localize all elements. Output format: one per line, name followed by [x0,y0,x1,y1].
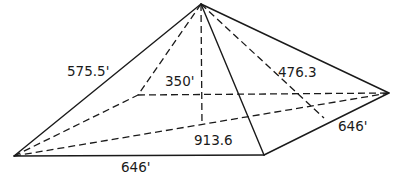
base-side-right-label: 646' [338,118,367,134]
edge-base-front [14,155,264,156]
pyramid-diagram: 575.5' 350' 476.3 913.6 646' 646' [0,0,398,184]
height-line [201,4,202,125]
edge-base-back [138,93,389,95]
edge-base-left [14,95,138,156]
lateral-edge-label: 575.5' [67,63,109,79]
base-side-front-label: 646' [121,159,150,175]
slant-height-line [201,4,324,118]
slant-height-label: 476.3 [278,64,317,80]
base-diagonal-label: 913.6 [194,132,233,148]
height-label: 350' [165,73,194,89]
edge-base-right [264,93,389,155]
